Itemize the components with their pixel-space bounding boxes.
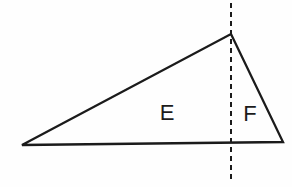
triangle-outline — [22, 34, 283, 145]
region-label-e: E — [160, 100, 175, 125]
figure-svg: E F — [0, 0, 292, 187]
region-label-f: F — [243, 101, 256, 126]
figure-canvas: E F — [0, 0, 292, 187]
